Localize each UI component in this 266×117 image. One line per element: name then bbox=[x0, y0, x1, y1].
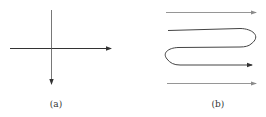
diagram-canvas bbox=[0, 0, 266, 117]
panel-b-label: (b) bbox=[212, 99, 225, 109]
panel-a-label: (a) bbox=[50, 99, 62, 109]
serpentine-path-arrow bbox=[165, 29, 256, 66]
panel-a-axes bbox=[10, 10, 111, 84]
panel-b-serpentine bbox=[165, 13, 256, 84]
